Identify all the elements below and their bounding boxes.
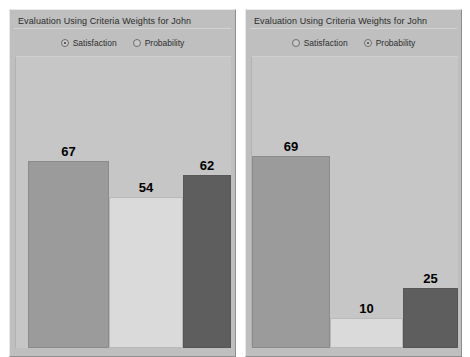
bar-value-3: 62	[183, 159, 231, 173]
bar-1[interactable]	[252, 156, 330, 348]
panel-title-bar: Evaluation Using Criteria Weights for Jo…	[246, 16, 461, 31]
radio-satisfaction-right[interactable]: Satisfaction	[292, 38, 348, 48]
radio-unselected-icon[interactable]	[133, 39, 141, 47]
radio-label-probability: Probability	[376, 38, 416, 48]
bar-chart-left: 67 54 62	[15, 56, 231, 348]
bar-1[interactable]	[28, 161, 109, 348]
bar-value-1: 69	[252, 140, 330, 154]
page-title: Evaluation Using Criteria Weights for Jo…	[18, 16, 191, 26]
satisfaction-panel: Evaluation Using Criteria Weights for Jo…	[9, 9, 236, 357]
radio-unselected-icon[interactable]	[292, 39, 300, 47]
bar-value-3: 25	[403, 272, 458, 286]
mode-radio-group-left: Satisfaction Probability	[10, 38, 235, 48]
radio-probability-left[interactable]: Probability	[133, 38, 185, 48]
radio-selected-icon[interactable]	[364, 39, 372, 47]
radio-satisfaction-left[interactable]: Satisfaction	[61, 38, 117, 48]
panel-title-bar: Evaluation Using Criteria Weights for Jo…	[10, 16, 235, 31]
bar-3[interactable]	[403, 288, 458, 348]
bar-2[interactable]	[330, 318, 403, 348]
probability-panel: Evaluation Using Criteria Weights for Jo…	[245, 9, 462, 357]
bar-3[interactable]	[183, 175, 231, 348]
bar-2[interactable]	[109, 197, 183, 348]
radio-label-probability: Probability	[145, 38, 185, 48]
bar-value-1: 67	[28, 145, 109, 159]
page-title: Evaluation Using Criteria Weights for Jo…	[254, 16, 427, 26]
radio-selected-icon[interactable]	[61, 39, 69, 47]
radio-probability-right[interactable]: Probability	[364, 38, 416, 48]
bar-value-2: 10	[330, 302, 403, 316]
radio-label-satisfaction: Satisfaction	[73, 38, 117, 48]
bar-value-2: 54	[109, 181, 183, 195]
title-divider	[250, 28, 457, 29]
radio-label-satisfaction: Satisfaction	[304, 38, 348, 48]
title-divider	[14, 28, 231, 29]
mode-radio-group-right: Satisfaction Probability	[246, 38, 461, 48]
bar-chart-right: 69 10 25	[251, 56, 458, 348]
